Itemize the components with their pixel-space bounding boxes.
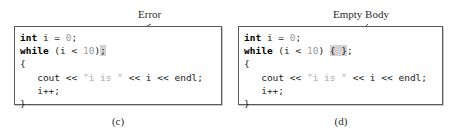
code-line: cout << "i is " << i << endl;: [244, 71, 442, 84]
figure-container: Error int i = 0;while (i < 10);{ cout <<…: [0, 0, 460, 136]
code-line: while (i < 10) { };: [244, 44, 442, 57]
code-box-d: int i = 0;while (i < 10) { };{ cout << "…: [238, 26, 443, 105]
code-line: int i = 0;: [244, 31, 442, 44]
panel-caption-d: (d): [321, 115, 361, 127]
code-line: }: [244, 97, 442, 110]
code-line: {: [244, 57, 442, 70]
code-line: i++;: [244, 84, 442, 97]
code-listing-d: int i = 0;while (i < 10) { };{ cout << "…: [239, 27, 442, 110]
